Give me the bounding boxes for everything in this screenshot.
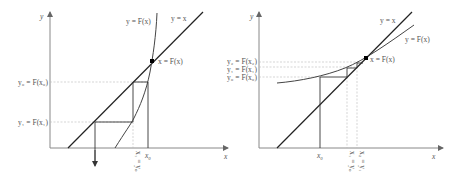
identity-line <box>68 12 203 148</box>
x-axis-label: x <box>223 152 228 161</box>
x0-tick-label: x₀ <box>144 151 151 160</box>
x0-tick-label: x₀ <box>316 151 323 160</box>
fixed-point-marker <box>364 56 368 60</box>
fixed-point-label: x = F(x) <box>370 55 395 64</box>
y-axis-label: y <box>39 12 44 21</box>
curve-label: y = F(x) <box>405 35 430 44</box>
x1-tick-label: x₁ = y₀ <box>348 151 357 172</box>
x-axis-label: x <box>431 152 436 161</box>
y0-tick-label: y₀ = F(x₀) <box>18 78 48 87</box>
left-panel: y x x = F(x) y = F(x) y = x y₀ = F(x₀) y… <box>18 12 228 172</box>
y0-tick-label: y₀ = F(x₀) <box>227 73 257 82</box>
fixed-point-marker <box>150 59 154 63</box>
cobweb-path <box>320 63 363 148</box>
curve-label: y = F(x) <box>126 17 151 26</box>
fixed-point-label: x = F(x) <box>158 57 183 66</box>
line-label: y = x <box>171 14 187 23</box>
identity-line <box>277 12 412 148</box>
y-axis-label: y <box>249 12 254 21</box>
function-curve <box>115 13 157 148</box>
function-curve <box>277 25 414 83</box>
fixed-point-iteration-diagram: y x x = F(x) y = F(x) y = x y₀ = F(x₀) y… <box>0 0 461 178</box>
x2-tick-label: x₂ = y₁ <box>358 151 367 172</box>
right-panel: y x x = F(x) y = x y = F(x) y₂ = F(x₂) y… <box>227 12 443 172</box>
line-label: y = x <box>380 16 396 25</box>
x1-tick-label: x₁ = y₀ <box>134 151 143 172</box>
y1-tick-label: y₁ = F(x₁) <box>18 118 48 127</box>
